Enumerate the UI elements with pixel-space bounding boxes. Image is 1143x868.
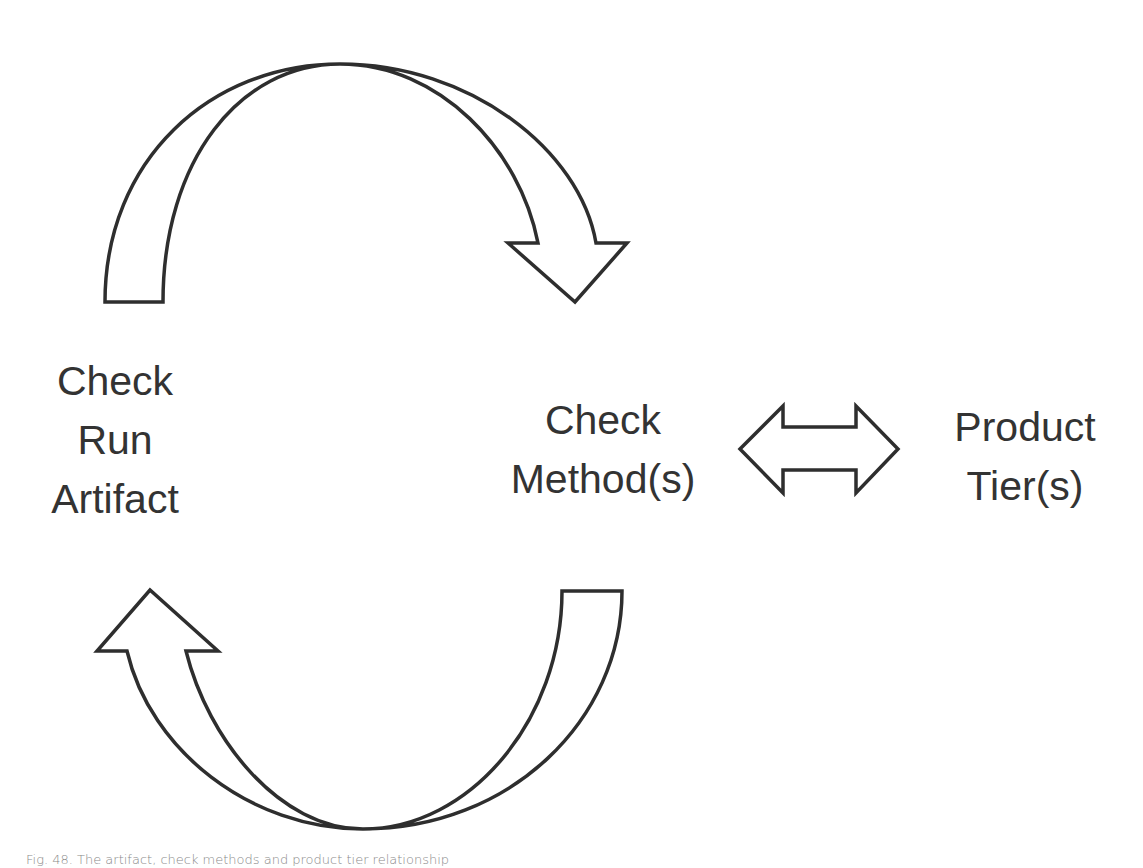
node-label-line: Check (35, 352, 195, 411)
node-label-line: Product (935, 398, 1115, 457)
curved-arrow-methods-to-artifact (97, 590, 622, 829)
node-label-line: Check (493, 391, 713, 450)
figure-caption: Fig. 48. The artifact, check methods and… (26, 852, 449, 868)
double-arrow-methods-tier (740, 406, 898, 493)
node-check-methods: Check Method(s) (493, 391, 713, 509)
node-label-line: Run (35, 411, 195, 470)
curved-arrow-artifact-to-methods (105, 64, 627, 302)
node-label-line: Tier(s) (935, 457, 1115, 516)
node-check-run-artifact: Check Run Artifact (35, 352, 195, 529)
node-product-tiers: Product Tier(s) (935, 398, 1115, 516)
node-label-line: Artifact (35, 470, 195, 529)
node-label-line: Method(s) (493, 450, 713, 509)
